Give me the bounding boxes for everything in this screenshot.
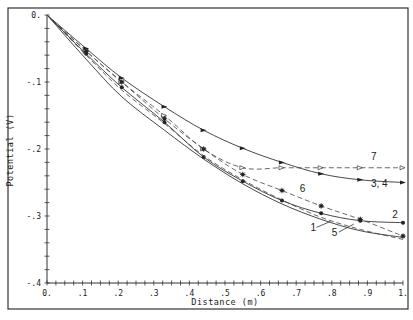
asterisk-marker [119, 79, 125, 85]
triangle-marker [400, 181, 406, 185]
x-tick-label: .9 [363, 289, 373, 298]
triangle-marker [240, 146, 246, 150]
axes: 0..1.2.3.4.5.6.7.8.91.0.-.1-.2-.3-.4 [27, 11, 408, 298]
series-line [47, 15, 403, 169]
curve-labels: 73, 46215 [300, 151, 399, 238]
asterisk-marker [279, 188, 285, 194]
series-line [47, 15, 403, 237]
asterisk-marker [318, 203, 324, 209]
chart-frame [8, 8, 408, 309]
leader-line [316, 221, 330, 227]
asterisk-marker [240, 172, 246, 178]
y-tick-label: -.1 [27, 78, 42, 87]
series-2 [47, 15, 405, 225]
potential-distance-chart: 0..1.2.3.4.5.6.7.8.91.0.-.1-.2-.3-.4 73,… [0, 0, 413, 320]
asterisk-marker [400, 233, 406, 239]
open-triangle-marker [400, 166, 405, 170]
curve-label: 6 [300, 183, 306, 194]
curve-label: 5 [332, 227, 338, 238]
series-3-4 [47, 15, 406, 185]
triangle-marker [357, 178, 363, 182]
series-1 [47, 15, 403, 237]
triangle-marker [279, 160, 285, 164]
triangle-marker [318, 172, 324, 176]
y-axis-label: Potential (V) [5, 113, 15, 186]
series-line [47, 15, 403, 236]
x-tick-label: .7 [291, 289, 301, 298]
y-tick-label: -.4 [27, 279, 42, 288]
y-tick-label: 0. [31, 11, 41, 20]
series-line [47, 15, 403, 239]
curves [47, 15, 406, 239]
y-tick-label: -.3 [27, 212, 42, 221]
x-axis-label: Distance (m) [191, 297, 258, 307]
x-tick-label: .3 [149, 289, 159, 298]
dot-marker [401, 221, 405, 225]
x-tick-label: .2 [113, 289, 123, 298]
curve-label: 1 [310, 222, 316, 233]
open-triangle-marker [357, 166, 362, 170]
y-tick-label: -.2 [27, 145, 42, 154]
curve-label: 2 [392, 209, 398, 220]
series-5 [47, 15, 403, 239]
curve-label: 7 [371, 151, 377, 162]
x-tick-label: .8 [327, 289, 337, 298]
series-6 [47, 15, 406, 239]
curve-label: 3, 4 [371, 178, 388, 189]
x-tick-label: .1 [78, 289, 88, 298]
series-7 [47, 15, 405, 170]
series-line [47, 15, 403, 183]
asterisk-marker [201, 146, 207, 152]
x-tick-label: 1. [398, 289, 408, 298]
series-line [47, 15, 403, 223]
open-triangle-marker [279, 166, 284, 170]
open-triangle-marker [318, 166, 323, 170]
dot-marker [358, 219, 362, 223]
x-tick-label: 0. [42, 289, 52, 298]
open-triangle-marker [240, 166, 245, 170]
dot-marker [319, 211, 323, 215]
